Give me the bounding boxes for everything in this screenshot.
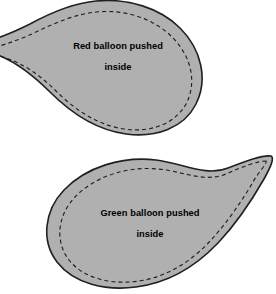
red-balloon-group: Red balloon pushed inside bbox=[0, 0, 202, 134]
green-balloon-label-line1: Green balloon pushed bbox=[100, 208, 199, 218]
green-balloon-outline bbox=[47, 156, 273, 288]
green-balloon-group: Green balloon pushed inside bbox=[47, 156, 273, 288]
red-balloon-label-line2: inside bbox=[104, 62, 131, 72]
red-balloon-outline bbox=[0, 0, 202, 134]
green-balloon-label-line2: inside bbox=[136, 229, 163, 239]
balloon-diagram: Red balloon pushed inside Green balloon … bbox=[0, 0, 276, 294]
red-balloon-label-line1: Red balloon pushed bbox=[73, 41, 163, 51]
diagram-canvas: Red balloon pushed inside Green balloon … bbox=[0, 0, 276, 294]
